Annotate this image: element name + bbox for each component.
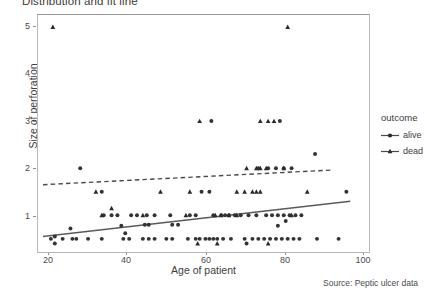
data-point-alive [207, 190, 211, 194]
data-point-dead [50, 24, 55, 28]
data-point-alive [147, 237, 151, 241]
data-point-dead [234, 189, 239, 193]
data-point-dead [141, 213, 146, 217]
data-point-dead [272, 119, 277, 123]
data-point-dead [109, 206, 114, 210]
data-point-dead [94, 189, 99, 193]
data-point-alive [313, 152, 317, 156]
y-tick-mark [33, 26, 36, 27]
data-point-alive [198, 237, 202, 241]
data-point-alive [135, 213, 139, 217]
data-point-alive [176, 223, 180, 227]
y-tick-label-2: 2 [16, 163, 30, 173]
data-point-alive [280, 237, 284, 241]
legend-title: outcome [381, 112, 423, 123]
data-point-alive [268, 237, 272, 241]
data-point-alive [243, 237, 247, 241]
data-point-alive [74, 237, 78, 241]
data-point-dead [258, 119, 263, 123]
data-point-alive [49, 237, 53, 241]
data-point-dead [242, 189, 247, 193]
data-point-dead [184, 213, 189, 217]
data-point-alive [168, 213, 172, 217]
y-tick-label-1: 1 [16, 211, 30, 221]
data-point-alive [209, 119, 213, 123]
data-point-alive [204, 237, 208, 241]
data-point-dead [195, 241, 200, 245]
data-point-alive [127, 237, 131, 241]
plot-area [37, 14, 370, 253]
data-point-alive [337, 237, 341, 241]
data-point-alive [100, 190, 104, 194]
legend-label-dead: dead [403, 146, 423, 156]
data-point-dead [305, 189, 310, 193]
chart-root: Distribution and fit line Size of perfor… [0, 0, 426, 294]
data-point-alive [221, 237, 225, 241]
y-tick-mark [33, 216, 36, 217]
y-tick-label-3: 3 [16, 116, 30, 126]
data-point-alive [121, 237, 125, 241]
data-point-alive [245, 242, 249, 246]
legend-item-alive[interactable]: alive [381, 130, 423, 140]
data-point-alive [290, 166, 294, 170]
legend-item-dead[interactable]: dead [381, 146, 423, 156]
data-point-alive [229, 237, 233, 241]
data-point-alive [264, 213, 268, 217]
legend-marker-circle-icon [381, 131, 399, 140]
data-point-alive [70, 237, 74, 241]
data-point-alive [315, 237, 319, 241]
data-point-alive [68, 227, 72, 231]
data-point-alive [223, 213, 227, 217]
y-tick-mark [33, 121, 36, 122]
data-point-alive [86, 237, 90, 241]
x-axis-label: Age of patient [37, 264, 370, 276]
data-point-alive [188, 213, 192, 217]
data-point-alive [282, 213, 286, 217]
data-point-alive [200, 190, 204, 194]
data-point-alive [294, 213, 298, 217]
data-point-dead [244, 166, 249, 170]
legend-label-alive: alive [403, 130, 422, 140]
data-point-dead [197, 119, 202, 123]
data-point-alive [147, 223, 151, 227]
legend-marker-triangle-icon [381, 147, 399, 156]
data-point-alive [344, 190, 348, 194]
data-point-alive [53, 235, 57, 239]
data-point-alive [274, 166, 278, 170]
data-point-alive [100, 237, 104, 241]
data-point-alive [211, 237, 215, 241]
y-tick-label-5: 5 [16, 21, 30, 31]
data-point-alive [254, 213, 258, 217]
data-point-alive [170, 237, 174, 241]
data-point-alive [239, 213, 243, 217]
data-point-alive [262, 237, 266, 241]
data-point-alive [153, 213, 157, 217]
data-point-alive [297, 237, 301, 241]
data-point-dead [285, 24, 290, 28]
data-point-alive [123, 231, 127, 235]
data-point-dead [266, 241, 271, 245]
legend: outcome alive dead [381, 112, 423, 162]
data-point-dead [250, 189, 255, 193]
data-point-alive [256, 237, 260, 241]
data-point-alive [153, 237, 157, 241]
y-tick-mark [33, 73, 36, 74]
data-point-alive [284, 219, 288, 223]
data-point-alive [270, 213, 274, 217]
fit-line-alive [43, 201, 350, 236]
data-point-alive [78, 166, 82, 170]
data-point-dead [254, 189, 259, 193]
data-point-alive [119, 224, 123, 228]
data-point-alive [115, 213, 119, 217]
data-point-alive [250, 237, 254, 241]
data-point-alive [276, 224, 280, 228]
scatter-plot-canvas [38, 15, 369, 252]
data-point-alive [274, 237, 278, 241]
data-point-alive [186, 237, 190, 241]
data-point-alive [276, 213, 280, 217]
data-point-alive [207, 237, 211, 241]
data-point-alive [141, 237, 145, 241]
fit-line-dead [43, 170, 331, 185]
data-point-alive [143, 223, 147, 227]
data-point-alive [299, 213, 303, 217]
